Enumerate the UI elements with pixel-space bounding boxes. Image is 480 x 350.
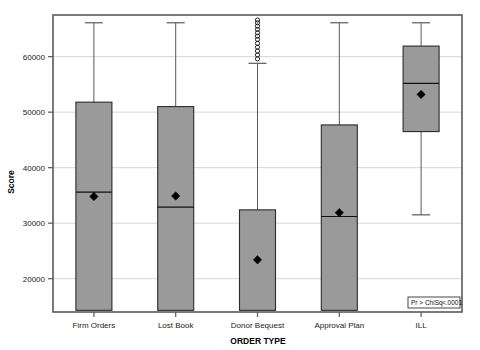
box-rect [403, 46, 439, 131]
box-rect [158, 107, 194, 311]
y-axis-ticks: 2000030000400005000060000 [23, 53, 53, 284]
y-tick-label: 50000 [23, 108, 46, 117]
boxplot-chart: 2000030000400005000060000 Firm OrdersLos… [0, 0, 480, 350]
boxplot-group [403, 23, 439, 215]
annotation-label: Pr > ChiSq [411, 299, 443, 307]
y-tick-label: 60000 [23, 53, 46, 62]
boxplot-group [321, 23, 357, 311]
x-tick-label: Approval Plan [314, 321, 364, 330]
x-tick-label: Lost Book [158, 321, 195, 330]
boxplot-group [158, 23, 194, 311]
annotation-value: <.0001 [442, 299, 462, 306]
x-tick-label: Firm Orders [73, 321, 116, 330]
boxplot-group [76, 23, 112, 311]
box-rect [76, 102, 112, 310]
boxplot-svg: 2000030000400005000060000 Firm OrdersLos… [0, 0, 480, 350]
y-tick-label: 40000 [23, 164, 46, 173]
x-tick-label: ILL [416, 321, 428, 330]
box-series [76, 18, 439, 310]
boxplot-group [240, 18, 276, 310]
x-axis-ticks: Firm OrdersLost BookDonor BequestApprova… [73, 312, 428, 330]
y-axis-title: Score [6, 170, 16, 194]
y-tick-label: 20000 [23, 275, 46, 284]
pvalue-annotation: Pr > ChiSq<.0001 [408, 297, 462, 308]
x-tick-label: Donor Bequest [231, 321, 285, 330]
box-rect [321, 125, 357, 310]
y-tick-label: 30000 [23, 219, 46, 228]
outlier-point [255, 18, 259, 22]
x-axis-title: ORDER TYPE [230, 336, 286, 346]
